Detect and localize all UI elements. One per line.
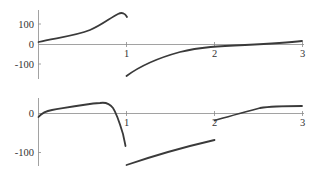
bottom-y-label: 0 — [29, 108, 34, 119]
top-x-label: 3 — [300, 48, 305, 59]
bottom-curve-branch-2 — [127, 140, 215, 165]
top-y-label: 0 — [29, 39, 34, 50]
chart-canvas: 100 0 -100 1 2 3 0 -100 1 2 3 — [0, 0, 314, 174]
top-y-label: 100 — [18, 19, 34, 30]
bottom-y-label: -100 — [15, 147, 34, 158]
bottom-x-label: 1 — [124, 117, 129, 128]
top-x-label: 2 — [212, 48, 217, 59]
bottom-curve-branch-1 — [39, 103, 126, 146]
top-plot: 100 0 -100 1 2 3 — [15, 10, 305, 79]
bottom-plot: 0 -100 1 2 3 — [15, 98, 305, 166]
bottom-x-label: 2 — [212, 117, 217, 128]
top-curve-branch-1 — [39, 13, 128, 42]
bottom-x-label: 3 — [300, 117, 305, 128]
top-x-label: 1 — [124, 48, 129, 59]
top-y-label: -100 — [15, 59, 34, 70]
